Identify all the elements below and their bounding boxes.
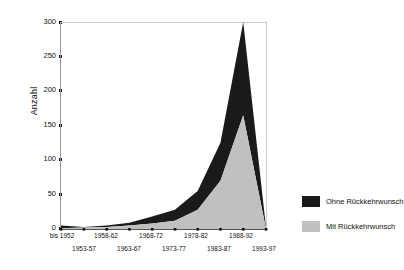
- stacked-area-series-group: [61, 22, 266, 229]
- legend-swatch-mit-rueckkehrwunsch: [302, 221, 320, 232]
- x-tick-label-1963-67: 1963-67: [107, 245, 151, 253]
- x-tick-label-1988-92: 1988-92: [219, 232, 263, 240]
- x-tick-label-1968-72: 1968-72: [129, 232, 173, 240]
- legend-swatch-ohne-rueckkehrwunsch: [302, 196, 320, 207]
- x-tick-mark: [105, 228, 108, 231]
- x-tick-mark: [196, 228, 199, 231]
- x-tick-label-1953-57: 1953-57: [62, 245, 106, 253]
- x-tick-label-1993-97: 1993-97: [242, 245, 286, 253]
- x-tick-mark: [60, 228, 63, 231]
- x-tick-label-1973-77: 1973-77: [152, 245, 196, 253]
- x-tick-mark: [219, 228, 222, 231]
- x-tick-label-1978-82: 1978-82: [174, 232, 218, 240]
- x-tick-label-bis-1952: bis 1952: [40, 232, 84, 240]
- legend-label-ohne-rueckkehrwunsch: Ohne Rückkehrwunsch: [326, 196, 404, 207]
- x-tick-label-1958-62: 1958-62: [84, 232, 128, 240]
- x-tick-label-1983-87: 1983-87: [197, 245, 241, 253]
- x-tick-mark: [83, 228, 86, 231]
- x-tick-mark: [265, 228, 268, 231]
- x-tick-mark: [151, 228, 154, 231]
- x-tick-mark: [128, 228, 131, 231]
- x-tick-mark: [242, 228, 245, 231]
- legend-label-mit-rueckkehrwunsch: Mit Rückkehrwunsch: [326, 221, 395, 232]
- x-tick-mark: [174, 228, 177, 231]
